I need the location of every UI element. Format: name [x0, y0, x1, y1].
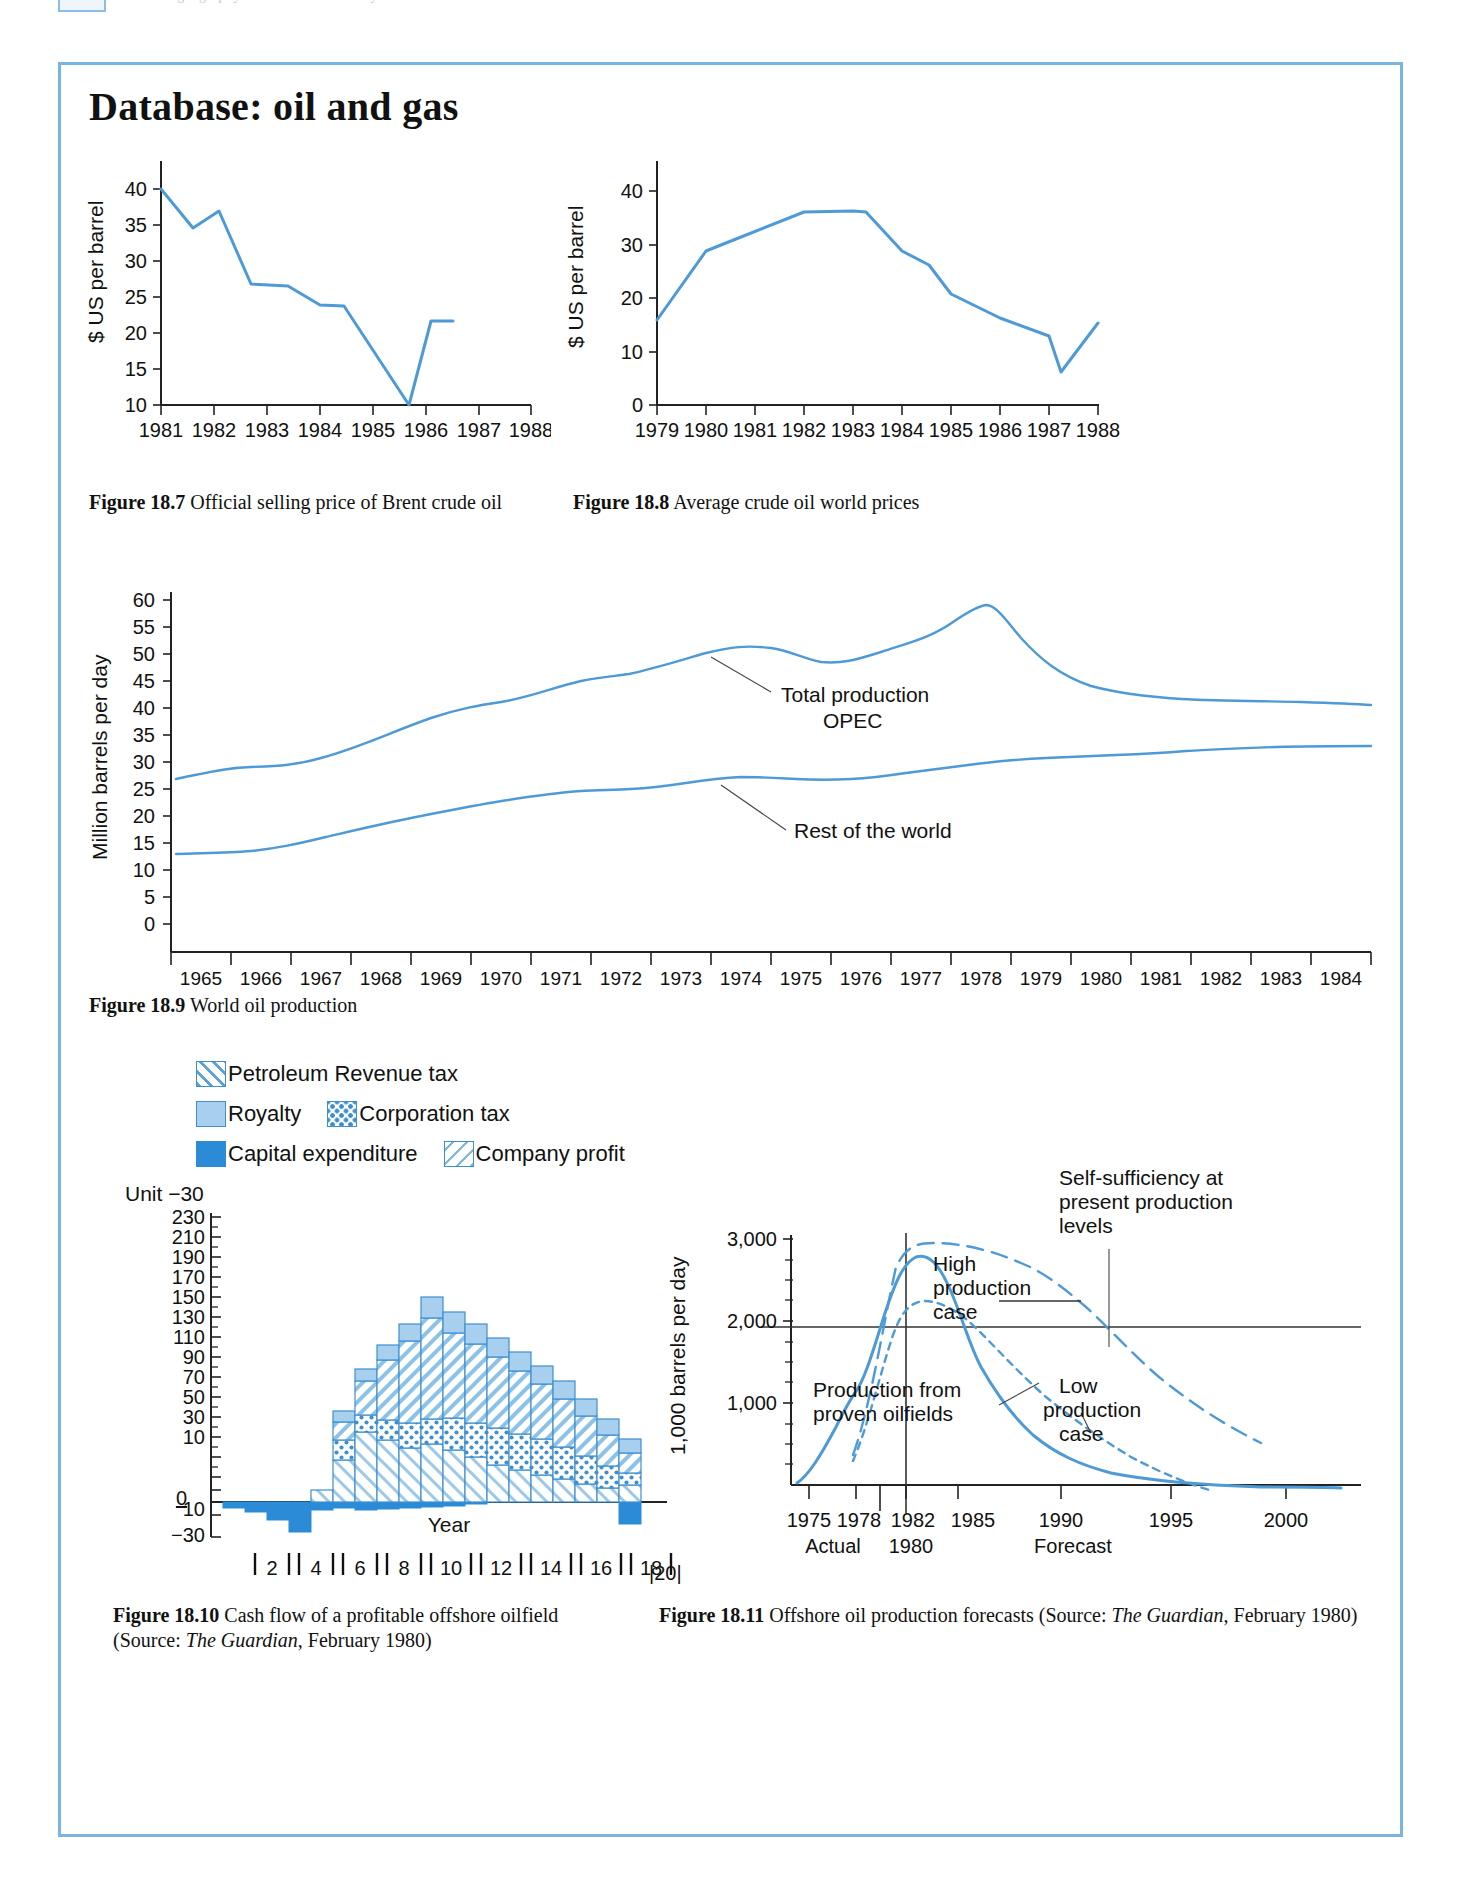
legend-label-royalty: Royalty	[228, 1101, 301, 1127]
running-head: The geography of the world economy	[150, 0, 378, 4]
figure-18-10-legend: Petroleum Revenue tax Royalty Corporatio…	[196, 1061, 651, 1181]
svg-text:10: 10	[183, 1498, 205, 1520]
f187-series-line	[161, 189, 453, 405]
svg-text:190: 190	[172, 1246, 205, 1268]
f189-y-axis-label: Million barrels per day	[88, 654, 111, 860]
legend-label-petroleum-revenue-tax: Petroleum Revenue tax	[228, 1061, 458, 1087]
figure-18-7-svg: $ US per barrel 40 35 30 25 20 15 10	[81, 143, 551, 463]
svg-text:1982: 1982	[1200, 968, 1242, 989]
svg-text:1979: 1979	[635, 419, 680, 441]
svg-text:1984: 1984	[298, 419, 343, 441]
svg-text:30: 30	[621, 234, 643, 256]
f1811-x-ticks: 1975 1978 1982 1985 1990 1995 2000 Actua…	[787, 1485, 1309, 1557]
f1811-y-ticks: 3,000 2,000 1,000	[727, 1228, 793, 1464]
svg-text:10: 10	[125, 394, 147, 416]
svg-text:Self-sufficiency at: Self-sufficiency at	[1059, 1166, 1223, 1189]
svg-text:1984: 1984	[880, 419, 925, 441]
swatch-petroleum-revenue-tax-icon	[196, 1061, 226, 1087]
f1810-y-ticks: 230 210 190 170 150 130 110 90 70 50 30 …	[171, 1206, 221, 1546]
f1811-y-axis-label: 1,000 barrels per day	[666, 1256, 689, 1455]
f188-series-line	[657, 211, 1098, 372]
svg-text:Low: Low	[1059, 1374, 1098, 1397]
svg-text:1987: 1987	[457, 419, 502, 441]
f1811-proven-oilfields-line	[797, 1256, 1341, 1488]
figure-18-9: Million barrels per day 60 55 50	[81, 560, 1381, 1010]
swatch-capital-expenditure-icon	[196, 1141, 226, 1167]
svg-text:110: 110	[173, 1326, 205, 1348]
f1810-x-axis-label: Year	[428, 1513, 470, 1536]
svg-text:15: 15	[133, 832, 155, 854]
svg-text:−30: −30	[171, 1524, 205, 1546]
f188-y-ticks: 40 30 20 10 0	[621, 180, 657, 416]
svg-text:1986: 1986	[404, 419, 449, 441]
f189-rest-of-world-line	[176, 746, 1371, 854]
svg-text:present production: present production	[1059, 1190, 1233, 1213]
svg-text:production: production	[1043, 1398, 1141, 1421]
f187-x-ticks: 1981 1982 1983 1984 1985 1986 1987 1988	[139, 405, 551, 441]
svg-text:1981: 1981	[733, 419, 778, 441]
legend-row-royalty-corporation: Royalty Corporation tax	[196, 1101, 651, 1127]
svg-text:1995: 1995	[1149, 1509, 1194, 1531]
caption-18-10-source-post: , February 1980)	[298, 1629, 432, 1651]
svg-text:production: production	[933, 1276, 1031, 1299]
svg-text:1979: 1979	[1020, 968, 1062, 989]
svg-text:5: 5	[144, 886, 155, 908]
legend-label-capital-expenditure: Capital expenditure	[228, 1141, 418, 1167]
figure-18-11: 1,000 barrels per day	[661, 1155, 1406, 1585]
svg-text:1983: 1983	[831, 419, 876, 441]
caption-18-7-text: Official selling price of Brent crude oi…	[190, 491, 502, 513]
page-title: Database: oil and gas	[89, 83, 459, 130]
caption-18-11-text: Offshore oil production forecasts (Sourc…	[769, 1604, 1111, 1626]
figure-18-7: $ US per barrel 40 35 30 25 20 15 10	[81, 143, 551, 463]
figure-18-8-svg: $ US per barrel 40 30 20 10 0	[561, 143, 1121, 463]
caption-18-8-text: Average crude oil world prices	[673, 491, 919, 513]
svg-text:40: 40	[125, 178, 147, 200]
svg-text:1,000: 1,000	[727, 1392, 777, 1414]
svg-text:20: 20	[621, 287, 643, 309]
f189-total-production-line	[176, 605, 1371, 779]
svg-text:1975: 1975	[780, 968, 822, 989]
svg-text:50: 50	[183, 1386, 205, 1408]
svg-text:90: 90	[183, 1346, 205, 1368]
swatch-company-profit-icon	[444, 1141, 474, 1167]
caption-figure-18-11: Figure 18.11 Offshore oil production for…	[659, 1603, 1369, 1628]
figure-18-10: Unit −30	[119, 1185, 679, 1605]
legend-row-petroleum-revenue-tax: Petroleum Revenue tax	[196, 1061, 651, 1087]
page-header-strip: The geography of the world economy	[0, 0, 1463, 24]
caption-18-9-label: Figure 18.9	[89, 994, 185, 1016]
svg-text:0: 0	[144, 913, 155, 935]
svg-text:10: 10	[621, 341, 643, 363]
legend-row-capex-profit: Capital expenditure Company profit	[196, 1141, 651, 1167]
svg-text:1976: 1976	[840, 968, 882, 989]
caption-18-10-text: Cash flow of a profitable offshore oilfi…	[224, 1604, 558, 1626]
svg-text:35: 35	[133, 724, 155, 746]
svg-text:1985: 1985	[929, 419, 974, 441]
svg-text:1988: 1988	[1076, 419, 1121, 441]
caption-18-7-label: Figure 18.7	[89, 491, 185, 513]
svg-text:20: 20	[125, 322, 147, 344]
caption-figure-18-7: Figure 18.7 Official selling price of Br…	[89, 490, 502, 515]
svg-text:1974: 1974	[720, 968, 763, 989]
svg-text:1986: 1986	[978, 419, 1023, 441]
f189-annot-total-production: Total production	[781, 683, 929, 706]
f1810-bars	[223, 1297, 641, 1532]
svg-text:1984: 1984	[1320, 968, 1363, 989]
svg-text:150: 150	[172, 1286, 205, 1308]
svg-text:1987: 1987	[1027, 419, 1072, 441]
svg-text:10: 10	[133, 859, 155, 881]
caption-figure-18-10: Figure 18.10 Cash flow of a profitable o…	[113, 1603, 643, 1653]
caption-18-9-text: World oil production	[190, 994, 357, 1016]
svg-text:1972: 1972	[600, 968, 642, 989]
svg-text:170: 170	[172, 1266, 205, 1288]
svg-text:1965: 1965	[180, 968, 222, 989]
svg-text:1985: 1985	[951, 1509, 996, 1531]
svg-text:1988: 1988	[509, 419, 551, 441]
svg-text:1977: 1977	[900, 968, 942, 989]
f189-annot-rest-of-world: Rest of the world	[794, 819, 952, 842]
svg-text:10: 10	[183, 1426, 205, 1448]
svg-text:1969: 1969	[420, 968, 462, 989]
caption-18-8-label: Figure 18.8	[573, 491, 669, 513]
svg-text:70: 70	[183, 1366, 205, 1388]
svg-text:230: 230	[172, 1206, 205, 1228]
svg-text:1978: 1978	[960, 968, 1002, 989]
